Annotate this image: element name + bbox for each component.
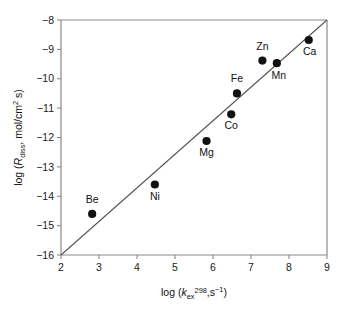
data-point-ni[interactable] — [151, 180, 159, 188]
x-tick-label: 3 — [96, 261, 102, 273]
y-tick-label: −13 — [36, 161, 54, 173]
data-point-label-fe: Fe — [231, 72, 243, 84]
x-tick-label: 2 — [58, 261, 64, 273]
data-point-be[interactable] — [88, 210, 96, 218]
y-tick-label: −16 — [36, 249, 54, 261]
data-point-label-co: Co — [225, 119, 239, 131]
data-point-label-be: Be — [86, 193, 99, 205]
x-tick-label: 6 — [210, 261, 216, 273]
x-tick-label: 7 — [248, 261, 254, 273]
data-point-zn[interactable] — [258, 56, 266, 64]
x-axis-title: log (kex298,s−1) — [161, 285, 227, 301]
x-tick-label: 8 — [286, 261, 292, 273]
data-point-ca[interactable] — [305, 36, 313, 44]
y-tick-label: −11 — [37, 102, 54, 114]
data-point-label-ca: Ca — [303, 45, 317, 57]
y-tick-label: −8 — [42, 14, 54, 26]
x-tick-label: 9 — [324, 261, 330, 273]
data-point-label-mn: Mn — [272, 69, 287, 81]
data-point-label-mg: Mg — [199, 146, 214, 158]
data-point-label-ni: Ni — [150, 190, 160, 202]
y-tick-label: −12 — [36, 131, 54, 143]
x-tick-label: 4 — [134, 261, 140, 273]
data-point-mg[interactable] — [202, 137, 210, 145]
y-tick-label: −15 — [36, 219, 54, 231]
scatter-chart-figure: −16−15−14−13−12−11−10−9−823456789BeNiMgC… — [0, 0, 347, 309]
data-point-label-zn: Zn — [256, 40, 268, 52]
y-tick-label: −9 — [42, 43, 54, 55]
y-tick-label: −14 — [36, 190, 54, 202]
y-tick-label: −10 — [36, 72, 54, 84]
trend-line — [61, 20, 327, 255]
data-point-co[interactable] — [227, 110, 235, 118]
data-point-mn[interactable] — [273, 59, 281, 67]
data-point-fe[interactable] — [233, 89, 241, 97]
y-axis-title: log (Rdiss, mol/cm2 s) — [11, 89, 27, 186]
plot-area: −16−15−14−13−12−11−10−9−823456789BeNiMgC… — [0, 0, 347, 309]
x-tick-label: 5 — [172, 261, 178, 273]
